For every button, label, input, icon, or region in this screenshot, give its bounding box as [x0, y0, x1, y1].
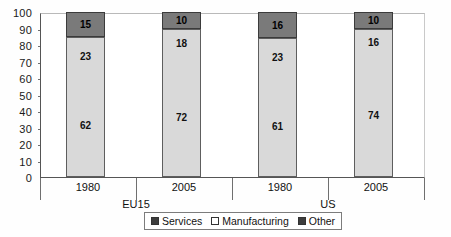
bar-segment-other: 15 — [66, 12, 105, 37]
legend-swatch-icon — [151, 217, 159, 225]
y-tick-label: 80 — [19, 40, 32, 52]
bar-segment-services: 62 — [66, 75, 105, 177]
bar-segment-other: 16 — [258, 12, 297, 38]
bar-segment-manufacturing: 23 — [66, 37, 105, 75]
x-tick-label-year: 2005 — [136, 181, 232, 193]
bar-segment-services: 72 — [162, 58, 201, 177]
y-tick-label: 40 — [19, 106, 32, 118]
bar-eu15-1980: 15 23 62 — [66, 12, 105, 177]
legend-item-other: Other — [298, 215, 335, 227]
legend-label: Other — [309, 215, 335, 227]
x-group-label-eu15: EU15 — [88, 198, 184, 210]
x-axis-separator — [424, 178, 425, 200]
y-tick-label: 50 — [19, 90, 32, 102]
plot-area: 15 23 62 10 18 72 16 23 61 10 16 74 — [40, 13, 425, 178]
bar-us-1980: 16 23 61 — [258, 12, 297, 177]
bar-segment-other: 10 — [354, 12, 393, 29]
legend-label: Services — [162, 215, 202, 227]
bar-eu15-2005: 10 18 72 — [162, 12, 201, 177]
x-tick-label-year: 1980 — [40, 181, 136, 193]
legend-item-services: Services — [151, 215, 202, 227]
y-tick-label: 100 — [13, 7, 32, 19]
x-tick-label-year: 2005 — [328, 181, 424, 193]
y-tick-label: 10 — [19, 156, 32, 168]
y-tick-label: 60 — [19, 73, 32, 85]
legend-item-manufacturing: Manufacturing — [211, 215, 289, 227]
bar-segment-manufacturing: 23 — [258, 38, 297, 76]
legend-swatch-icon — [298, 217, 306, 225]
bar-segment-other: 10 — [162, 12, 201, 29]
x-axis: 1980 2005 1980 2005 EU15 US — [40, 178, 425, 214]
y-tick-label: 30 — [19, 123, 32, 135]
x-group-label-us: US — [280, 198, 376, 210]
y-tick-label: 0 — [26, 172, 32, 184]
legend-label: Manufacturing — [222, 215, 289, 227]
y-tick-label: 90 — [19, 24, 32, 36]
bar-segment-manufacturing: 18 — [162, 29, 201, 59]
chart-legend: Services Manufacturing Other — [144, 212, 342, 230]
bar-segment-services: 74 — [354, 55, 393, 177]
x-tick-label-year: 1980 — [232, 181, 328, 193]
y-tick-label: 20 — [19, 139, 32, 151]
bar-us-2005: 10 16 74 — [354, 12, 393, 177]
y-tick-label: 70 — [19, 57, 32, 69]
bar-segment-manufacturing: 16 — [354, 29, 393, 55]
chart-figure: 100 90 80 70 60 50 40 30 20 10 0 15 23 6… — [0, 0, 451, 237]
bar-segment-services: 61 — [258, 76, 297, 177]
y-axis: 100 90 80 70 60 50 40 30 20 10 0 — [0, 0, 40, 191]
legend-swatch-icon — [211, 217, 219, 225]
